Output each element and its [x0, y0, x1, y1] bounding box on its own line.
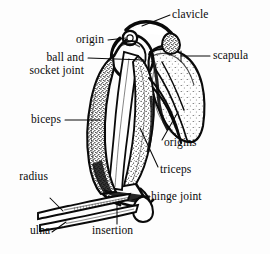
label-scapula: scapula: [213, 49, 248, 62]
label-ball-and-socket-joint-line1: ball and: [6, 51, 84, 64]
label-ulna: ulna: [30, 224, 50, 237]
label-clavicle: clavicle: [172, 8, 209, 21]
label-biceps: biceps: [8, 113, 61, 126]
label-insertion: insertion: [92, 224, 133, 237]
label-origins: origins: [164, 136, 197, 149]
label-origin: origin: [30, 33, 104, 46]
label-ball-and-socket-joint-line2: socket joint: [6, 64, 84, 77]
label-radius: radius: [0, 170, 48, 183]
label-hinge-joint: hinge joint: [151, 190, 202, 203]
anatomy-figure: clavicle scapula origin ball and socket …: [0, 0, 270, 254]
label-triceps: triceps: [160, 163, 191, 176]
